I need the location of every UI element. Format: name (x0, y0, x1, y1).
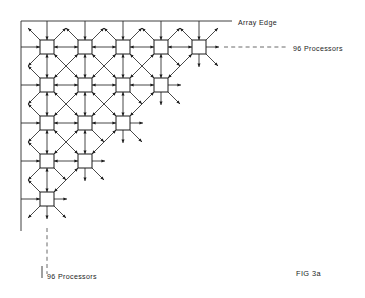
arrow-head-icon (177, 83, 181, 86)
arrow-head-icon (54, 45, 58, 48)
processor-node-box (116, 40, 130, 54)
arrow-head-icon (197, 36, 200, 40)
arrow-head-icon (45, 92, 48, 96)
arrow-head-icon (112, 45, 116, 48)
arrow-head-icon (45, 130, 48, 134)
processor-node-box (154, 40, 168, 54)
processor-node (40, 154, 54, 168)
arrow-head-icon (121, 139, 124, 143)
processor-node (78, 78, 92, 92)
processor-node-box (116, 78, 130, 92)
arrow-head-icon (45, 150, 48, 154)
processor-node-box (40, 154, 54, 168)
processor-node-box (78, 116, 92, 130)
arrow-head-icon (197, 63, 200, 67)
arrow-head-icon (83, 36, 86, 40)
processor-node (116, 78, 130, 92)
processor-node (116, 40, 130, 54)
arrow-head-icon (112, 83, 116, 86)
arrow-head-icon (36, 121, 40, 124)
arrow-head-icon (159, 36, 162, 40)
processor-node (78, 154, 92, 168)
arrow-head-icon (45, 168, 48, 172)
arrow-head-icon (83, 177, 86, 181)
processor-node-box (192, 40, 206, 54)
arrow-head-icon (112, 121, 116, 124)
arrow-head-icon (121, 112, 124, 116)
arrow-head-icon (83, 54, 86, 58)
processor-node (116, 116, 130, 130)
processor-node (40, 116, 54, 130)
processor-node (154, 40, 168, 54)
processor-node (40, 40, 54, 54)
arrow-head-icon (121, 92, 124, 96)
arrow-head-icon (36, 159, 40, 162)
arrow-head-icon (159, 54, 162, 58)
arrow-head-icon (54, 159, 58, 162)
arrow-head-icon (45, 54, 48, 58)
processor-node-box (40, 192, 54, 206)
arrow-head-icon (54, 121, 58, 124)
figure-caption: FIG 3a (296, 269, 321, 278)
arrow-head-icon (130, 83, 134, 86)
processor-node (192, 40, 206, 54)
arrow-head-icon (83, 130, 86, 134)
arrow-head-icon (45, 188, 48, 192)
processor-node-box (116, 116, 130, 130)
arrow-head-icon (74, 159, 78, 162)
arrow-head-icon (74, 45, 78, 48)
processor-node-box (78, 78, 92, 92)
arrow-head-icon (168, 45, 172, 48)
processor-node-box (40, 40, 54, 54)
arrow-head-icon (36, 83, 40, 86)
arrow-head-icon (45, 112, 48, 116)
arrow-head-icon (74, 83, 78, 86)
arrow-head-icon (188, 45, 192, 48)
arrow-head-icon (121, 74, 124, 78)
arrow-head-icon (130, 45, 134, 48)
array-edge-label: Array Edge (238, 19, 277, 27)
processor-node (78, 40, 92, 54)
arrow-head-icon (36, 45, 40, 48)
arrow-head-icon (139, 121, 143, 124)
processor-node-box (78, 154, 92, 168)
arrow-head-icon (36, 197, 40, 200)
arrow-head-icon (150, 83, 154, 86)
arrow-head-icon (63, 197, 67, 200)
processor-node (40, 78, 54, 92)
processor-node-box (154, 78, 168, 92)
arrow-head-icon (101, 159, 105, 162)
arrow-head-icon (150, 45, 154, 48)
arrow-head-icon (215, 45, 219, 48)
figure-root: Array Edge 96 Processors 96 Processors F… (0, 0, 365, 298)
processor-node (78, 116, 92, 130)
arrow-head-icon (121, 36, 124, 40)
arrow-head-icon (121, 54, 124, 58)
arrow-head-icon (45, 215, 48, 219)
processor-node (154, 78, 168, 92)
processor-node-box (40, 78, 54, 92)
arrow-head-icon (92, 121, 96, 124)
arrow-head-icon (83, 74, 86, 78)
right-processors-label: 96 Processors (293, 45, 343, 53)
bottom-processors-label: 96 Processors (47, 273, 97, 281)
arrow-head-icon (45, 36, 48, 40)
processor-node (40, 192, 54, 206)
arrow-head-icon (83, 150, 86, 154)
arrow-head-icon (54, 83, 58, 86)
arrow-head-icon (74, 121, 78, 124)
arrow-head-icon (159, 101, 162, 105)
processor-node-box (78, 40, 92, 54)
processor-array-diagram: Array Edge 96 Processors 96 Processors F… (0, 0, 365, 298)
processor-node-box (40, 116, 54, 130)
arrow-head-icon (45, 74, 48, 78)
arrow-head-icon (92, 45, 96, 48)
arrow-head-icon (83, 112, 86, 116)
arrow-head-icon (83, 92, 86, 96)
arrow-head-icon (159, 74, 162, 78)
arrow-head-icon (92, 83, 96, 86)
